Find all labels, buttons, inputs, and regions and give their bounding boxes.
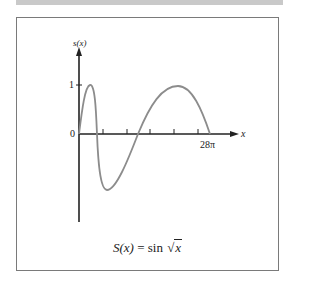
x-axis-arrow-icon [230, 131, 239, 137]
sine-sqrt-curve [79, 85, 210, 190]
y-axis-arrow-icon [76, 47, 82, 56]
caption-lhs: S(x) [113, 240, 134, 255]
origin-label: 0 [70, 129, 75, 139]
y-tick-label-one: 1 [69, 80, 74, 90]
x-max-label: 28π [200, 140, 215, 150]
x-axis-label: x [241, 129, 245, 139]
caption-radicand: x [174, 239, 182, 255]
caption-eq: = sin [134, 240, 166, 255]
y-axis-label: s(x) [73, 39, 87, 48]
function-caption: S(x) = sin √x [113, 240, 182, 256]
sqrt-symbol: √x [166, 240, 182, 256]
